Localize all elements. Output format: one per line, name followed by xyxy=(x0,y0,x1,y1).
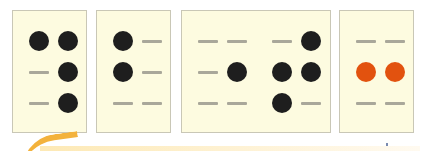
dash-icon xyxy=(29,93,49,113)
dash-icon xyxy=(198,62,218,82)
dash-line xyxy=(301,102,321,105)
dash-icon xyxy=(272,31,292,51)
dot-icon xyxy=(385,62,405,82)
dash-icon xyxy=(356,93,376,113)
dot-icon xyxy=(113,62,133,82)
dot-icon xyxy=(113,31,133,51)
dash-line xyxy=(113,102,133,105)
dot-icon xyxy=(301,62,321,82)
dot-icon xyxy=(272,93,292,113)
dash-icon xyxy=(385,31,405,51)
dash-line xyxy=(356,40,376,43)
dash-icon xyxy=(227,31,247,51)
decorative-band xyxy=(40,146,420,151)
dot-icon xyxy=(356,62,376,82)
dash-icon xyxy=(29,62,49,82)
dot-card-2 xyxy=(96,10,171,133)
dash-line xyxy=(142,71,162,74)
dash-icon xyxy=(301,93,321,113)
dash-line xyxy=(385,102,405,105)
dash-icon xyxy=(142,93,162,113)
dot-icon xyxy=(272,62,292,82)
dash-icon xyxy=(356,31,376,51)
dash-icon xyxy=(198,93,218,113)
dash-line xyxy=(272,40,292,43)
dash-line xyxy=(227,40,247,43)
dot-icon xyxy=(227,62,247,82)
dash-line xyxy=(142,40,162,43)
decorative-mark xyxy=(386,143,388,146)
dash-line xyxy=(356,102,376,105)
dash-icon xyxy=(198,31,218,51)
dot-icon xyxy=(58,62,78,82)
dash-line xyxy=(198,40,218,43)
dash-icon xyxy=(385,93,405,113)
dash-icon xyxy=(142,62,162,82)
dash-line xyxy=(29,102,49,105)
dash-line xyxy=(198,102,218,105)
dot-icon xyxy=(29,31,49,51)
dot-card-3 xyxy=(181,10,257,133)
dash-line xyxy=(198,71,218,74)
dash-line xyxy=(385,40,405,43)
dot-icon xyxy=(58,93,78,113)
dot-icon xyxy=(301,31,321,51)
dash-line xyxy=(142,102,162,105)
dot-card-5 xyxy=(339,10,414,133)
dash-line xyxy=(29,71,49,74)
dot-card-4 xyxy=(256,10,331,133)
dash-icon xyxy=(113,93,133,113)
dash-icon xyxy=(227,93,247,113)
dot-icon xyxy=(58,31,78,51)
dash-icon xyxy=(142,31,162,51)
dash-line xyxy=(227,102,247,105)
dot-card-1 xyxy=(12,10,87,133)
